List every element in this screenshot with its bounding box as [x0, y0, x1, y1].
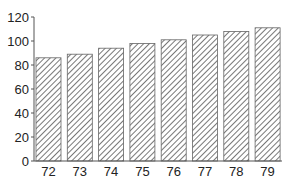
bar-chart: 020406080100120 7273747576777879 — [0, 0, 288, 187]
y-tick-label: 20 — [15, 130, 29, 145]
x-tick-label: 75 — [135, 164, 149, 179]
bar-73 — [67, 54, 92, 161]
x-tick-label: 72 — [41, 164, 55, 179]
x-tick-label: 73 — [73, 164, 87, 179]
bar-79 — [255, 28, 280, 161]
bar-74 — [99, 48, 124, 161]
bar-72 — [36, 58, 61, 161]
y-axis: 020406080100120 — [7, 10, 34, 169]
y-tick-label: 100 — [7, 34, 29, 49]
x-tick-label: 76 — [166, 164, 180, 179]
y-tick-label: 0 — [22, 154, 29, 169]
x-tick-label: 79 — [260, 164, 274, 179]
y-tick-label: 40 — [15, 106, 29, 121]
y-tick-label: 80 — [15, 58, 29, 73]
bar-76 — [161, 40, 186, 161]
x-axis: 7273747576777879 — [34, 161, 282, 179]
y-tick-label: 60 — [15, 82, 29, 97]
y-tick-label: 120 — [7, 10, 29, 25]
bar-75 — [130, 43, 155, 161]
bar-77 — [193, 35, 218, 161]
x-tick-label: 77 — [198, 164, 212, 179]
x-tick-label: 74 — [104, 164, 118, 179]
bar-78 — [224, 31, 249, 161]
bars-group — [36, 28, 280, 161]
x-tick-label: 78 — [229, 164, 243, 179]
